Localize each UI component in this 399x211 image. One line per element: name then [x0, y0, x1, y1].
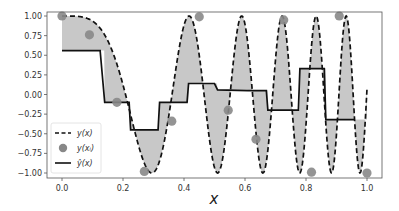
y-axis: 1.000.750.500.250.00−0.25−0.50−0.75−1.00: [17, 12, 47, 178]
sample-point-marker: [307, 168, 316, 177]
x-axis-label: x: [209, 190, 219, 208]
sample-point-marker: [224, 106, 233, 115]
sample-point-marker: [167, 117, 176, 126]
error-fill-area: [62, 16, 367, 173]
legend-label-true: y(x): [76, 129, 93, 138]
y-tick-label: −0.75: [17, 149, 42, 158]
sample-point-marker: [140, 167, 149, 176]
y-tick-label: −0.25: [17, 110, 42, 119]
legend-label-samples: y(xᵢ): [76, 144, 94, 153]
sample-point-marker: [112, 98, 121, 107]
sample-point-marker: [279, 15, 288, 24]
y-tick-label: 0.50: [24, 51, 42, 60]
sample-point-marker: [195, 12, 204, 21]
sample-point-marker: [251, 135, 260, 144]
sample-point-marker: [57, 11, 66, 20]
y-tick-label: 1.00: [24, 12, 42, 21]
x-tick-label: 0.4: [178, 184, 191, 193]
y-tick-label: 0.75: [24, 32, 42, 41]
legend-label-approx: ŷ(x): [76, 159, 93, 168]
y-tick-label: 0.25: [24, 71, 42, 80]
sample-point-marker: [85, 30, 94, 39]
legend: y(x) y(xᵢ) ŷ(x): [51, 123, 101, 173]
y-tick-label: 0.00: [24, 91, 42, 100]
legend-circle-marker-icon: [59, 144, 67, 152]
x-tick-label: 0.6: [239, 184, 252, 193]
x-tick-label: 0.0: [56, 184, 69, 193]
sample-point-marker: [362, 168, 371, 177]
y-tick-label: −0.50: [17, 130, 42, 139]
x-tick-label: 0.2: [117, 184, 130, 193]
x-tick-label: 0.8: [300, 184, 313, 193]
y-tick-label: −1.00: [17, 169, 42, 178]
sample-point-marker: [335, 11, 344, 20]
chart: 0.00.20.40.60.81.0 1.000.750.500.250.00−…: [0, 0, 399, 211]
x-tick-label: 1.0: [361, 184, 374, 193]
